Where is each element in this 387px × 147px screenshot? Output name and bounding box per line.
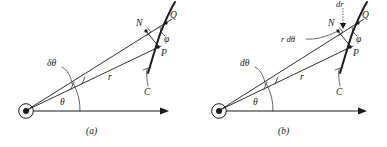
label-phi-a: φ [164,34,169,44]
label-r-d-theta-b: r dθ [281,34,296,44]
label-theta-a: θ [60,97,65,107]
label-p-b: P [352,48,359,58]
label-c-a: C [144,87,151,97]
origin-pole-b [212,104,227,119]
label-d-theta-b: dθ [240,58,250,68]
theta-arc-a [74,85,80,111]
point-p-a [156,45,159,48]
label-n-b: N [327,18,335,28]
diagram-panel-b: θ r dθ dr r dθ φ N [193,0,387,147]
radius-vector-r-b [220,46,353,110]
label-n-a: N [135,18,143,28]
point-q-a [164,21,167,24]
label-r-a: r [108,72,112,82]
label-delta-theta-a: δθ [47,58,56,68]
polar-axis-b [219,107,367,114]
diagram-panel-a: θ r δθ φ N Q P C [0,0,193,147]
polar-axis-a [26,107,169,114]
point-p-b [348,45,351,48]
label-phi-b: φ [356,34,361,44]
label-q-b: Q [362,10,369,20]
segment-np-a [146,31,159,47]
label-p-a: P [160,48,167,58]
origin-pole-a [19,104,34,119]
label-c-b: C [336,87,343,97]
point-q-b [356,21,359,24]
caption-panel-a: (a) [86,126,97,136]
segment-np-b [338,31,351,47]
point-n-a [144,29,147,32]
point-n-b [336,29,339,32]
label-q-a: Q [170,10,177,20]
caption-panel-b: (b) [278,126,289,136]
theta-arc-b [267,85,273,111]
label-r-b: r [300,72,304,82]
label-dr-b: dr [336,0,344,9]
label-theta-b: θ [253,97,258,107]
figure-root: θ r δθ φ N Q P C [0,0,387,147]
leader-r-d-theta-b [306,32,336,39]
radius-vector-r-a [27,46,161,110]
dr-measure-b [340,8,346,29]
